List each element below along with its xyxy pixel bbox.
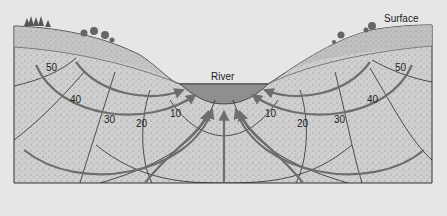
equipotential-label-40-right: 40 — [367, 94, 379, 105]
equipotential-label-30-right: 30 — [334, 114, 346, 125]
trees-left-icon — [24, 16, 51, 27]
equipotential-label-10-right: 10 — [265, 108, 277, 119]
equipotential-label-10-left: 10 — [170, 108, 182, 119]
groundwater-flow-diagram: Surface River 50 40 30 20 10 10 20 30 40… — [0, 0, 447, 216]
river-label: River — [211, 71, 235, 82]
equipotential-label-20-right: 20 — [297, 118, 309, 129]
surface-label: Surface — [384, 13, 419, 24]
equipotential-label-30-left: 30 — [104, 114, 116, 125]
equipotential-label-20-left: 20 — [136, 118, 148, 129]
equipotential-label-50-left: 50 — [46, 62, 58, 73]
equipotential-label-50-right: 50 — [395, 62, 407, 73]
equipotential-label-40-left: 40 — [70, 94, 82, 105]
